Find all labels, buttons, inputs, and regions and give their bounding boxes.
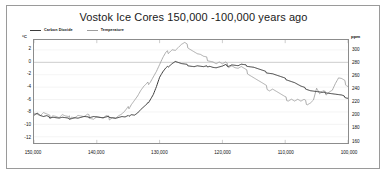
legend-swatch-carbon-dioxide [30, 30, 41, 31]
plot-area [33, 39, 349, 144]
y-axis-left-tick-label: -4 [19, 84, 31, 89]
legend-entry-carbon-dioxide: Carbon Dioxide [30, 28, 73, 32]
legend-label-carbon-dioxide: Carbon Dioxide [44, 28, 73, 32]
x-axis-tick-label: 140,000 [76, 150, 116, 155]
legend-entry-temperature: Temperature [87, 28, 124, 32]
y-axis-left-tick-label: -6 [19, 97, 31, 102]
chart-legend: Carbon Dioxide Temperature [30, 28, 124, 32]
y-axis-right-tick-label: 220 [352, 99, 370, 104]
y-axis-right-unit-label: ppm [351, 34, 360, 39]
y-axis-left-tick-label: -8 [19, 109, 31, 114]
series-line-temperature [34, 42, 348, 120]
y-axis-left-tick-label: -2 [19, 71, 31, 76]
legend-label-temperature: Temperature [101, 28, 124, 32]
legend-swatch-temperature [87, 30, 98, 31]
y-axis-right-tick-label: 300 [352, 47, 370, 52]
y-axis-right-tick-label: 260 [352, 73, 370, 78]
plot-canvas [34, 40, 348, 143]
series-line-carbon-dioxide [34, 61, 348, 119]
y-axis-right-tick-label: 280 [352, 60, 370, 65]
y-axis-right-tick-label: 180 [352, 125, 370, 130]
chart-screenshot: Vostok Ice Cores 150,000 -100,000 years … [0, 0, 387, 176]
chart-title: Vostok Ice Cores 150,000 -100,000 years … [0, 11, 387, 23]
y-axis-left-tick-label: 0 [19, 59, 31, 64]
x-axis-tick-label: 100,000 [329, 150, 369, 155]
y-axis-left-unit-label: °C [22, 34, 27, 39]
y-axis-right-tick-label: 160 [352, 139, 370, 144]
x-axis-tick-label: 120,000 [203, 150, 243, 155]
x-axis-tick-label: 150,000 [13, 150, 53, 155]
x-axis-tick-label: 110,000 [266, 150, 306, 155]
y-axis-right-tick-label: 240 [352, 86, 370, 91]
y-axis-right-tick-label: 200 [352, 112, 370, 117]
y-axis-left-tick-label: -10 [19, 122, 31, 127]
x-axis-tick-label: 130,000 [139, 150, 179, 155]
y-axis-left-tick-label: -12 [19, 135, 31, 140]
y-axis-left-tick-label: 2 [19, 46, 31, 51]
